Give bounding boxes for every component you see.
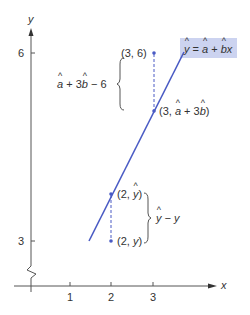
regression-equation: y = a + bx bbox=[184, 44, 232, 55]
label-point-observed-2: (2, y) bbox=[117, 236, 142, 247]
point-observed-3-6 bbox=[152, 51, 156, 55]
label-point-fitted-2: (2, y) bbox=[117, 189, 142, 200]
y-tick-6: 6 bbox=[18, 48, 24, 59]
x-axis bbox=[14, 282, 217, 289]
x-axis-label: x bbox=[221, 280, 227, 291]
x-tick-1: 1 bbox=[67, 292, 73, 303]
label-point-3-6: (3, 6) bbox=[121, 48, 147, 59]
label-point-fitted-3: (3, a + 3b) bbox=[159, 106, 209, 117]
label-upper-residual: a + 3b − 6 bbox=[57, 79, 107, 90]
x-tick-3: 3 bbox=[150, 292, 156, 303]
y-axis-label: y bbox=[28, 14, 34, 25]
label-lower-residual: y − y bbox=[156, 213, 180, 224]
y-axis bbox=[27, 28, 36, 292]
point-fitted-3 bbox=[152, 109, 156, 113]
upper-bracket bbox=[117, 58, 124, 110]
point-fitted-2 bbox=[109, 192, 113, 196]
y-tick-3: 3 bbox=[18, 236, 24, 247]
lower-bracket bbox=[144, 193, 151, 243]
x-tick-2: 2 bbox=[108, 292, 114, 303]
point-observed-2 bbox=[109, 239, 113, 243]
